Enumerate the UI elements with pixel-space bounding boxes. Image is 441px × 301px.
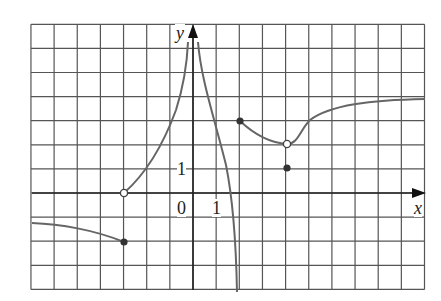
curve-falling-to-asymptote <box>198 42 237 292</box>
filled-point <box>120 238 127 245</box>
grid-lines <box>31 24 425 289</box>
x-tick-label: 1 <box>212 199 221 217</box>
x-axis-label: x <box>414 199 422 217</box>
axes <box>32 24 426 290</box>
origin-label: 0 <box>177 199 186 217</box>
curve-left-segment <box>32 223 124 242</box>
filled-point <box>283 164 290 171</box>
y-tick-label: 1 <box>177 160 186 178</box>
function-graph <box>0 0 441 301</box>
open-point <box>283 140 290 147</box>
y-axis-label: y <box>175 24 185 42</box>
open-point <box>120 189 127 196</box>
y-axis-arrow-icon <box>188 24 198 38</box>
points <box>120 117 290 245</box>
filled-point <box>236 117 243 124</box>
curves <box>32 42 425 292</box>
